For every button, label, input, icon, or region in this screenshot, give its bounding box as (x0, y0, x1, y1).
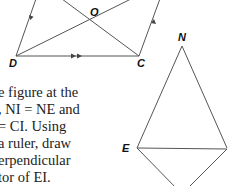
problem-line-1: e figure at the (0, 84, 108, 101)
diagonal-d (16, 0, 137, 56)
problem-text: e figure at the , NI = NE and = CI. Usin… (0, 84, 108, 186)
side-ic (184, 149, 227, 186)
problem-line-4: a ruler, draw (0, 135, 108, 152)
problem-line-2: , NI = NE and (0, 101, 108, 118)
side-cb (139, 0, 161, 56)
label-d: D (9, 57, 17, 69)
label-o: O (90, 6, 99, 18)
parallelogram-figure (16, 0, 161, 56)
kite-figure (137, 46, 227, 186)
problem-line-5: erpendicular (0, 152, 108, 169)
double-arrow-mark-icon (71, 54, 76, 59)
label-c: C (137, 57, 146, 69)
label-e: E (122, 142, 130, 154)
segment-ei (137, 148, 227, 149)
problem-line-3: = CI. Using (0, 118, 108, 135)
problem-line-6: tor of EI. (0, 169, 108, 186)
side-ni (182, 46, 227, 148)
double-arrow-mark-icon-2 (77, 54, 82, 59)
label-n: N (178, 31, 187, 43)
side-ec (137, 148, 180, 186)
